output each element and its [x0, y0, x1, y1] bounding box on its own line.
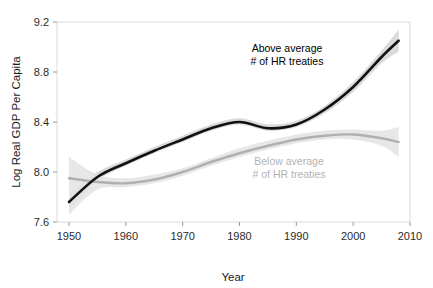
y-tick-label-8.0: 8.0: [34, 166, 49, 178]
x-tick-label-1970: 1970: [170, 230, 194, 242]
above-average-label-line1: Above average: [252, 42, 323, 54]
chart-background: [0, 0, 433, 288]
x-tick-label-1980: 1980: [227, 230, 251, 242]
x-tick-label-1950: 1950: [57, 230, 81, 242]
x-tick-label-1990: 1990: [284, 230, 308, 242]
y-tick-label-8.4: 8.4: [34, 116, 49, 128]
below-average-label-line1: Below average: [254, 155, 324, 167]
x-axis-title: Year: [221, 271, 244, 283]
chart-canvas: 1950196019701980199020002010 7.68.08.48.…: [0, 0, 433, 288]
gdp-treaties-line-chart: 1950196019701980199020002010 7.68.08.48.…: [0, 0, 433, 288]
x-tick-label-2000: 2000: [341, 230, 365, 242]
above-average-label-line2: # of HR treaties: [251, 55, 324, 67]
below-average-label-line2: # of HR treaties: [253, 168, 326, 180]
y-tick-label-9.2: 9.2: [34, 16, 49, 28]
x-tick-label-1960: 1960: [114, 230, 138, 242]
above-average-label: Above average# of HR treaties: [251, 42, 324, 67]
below-average-label: Below average# of HR treaties: [253, 155, 326, 180]
y-tick-label-8.8: 8.8: [34, 66, 49, 78]
y-axis-title: Log Real GDP Per Capita: [10, 56, 22, 188]
x-tick-label-2010: 2010: [398, 230, 422, 242]
y-tick-label-7.6: 7.6: [34, 216, 49, 228]
